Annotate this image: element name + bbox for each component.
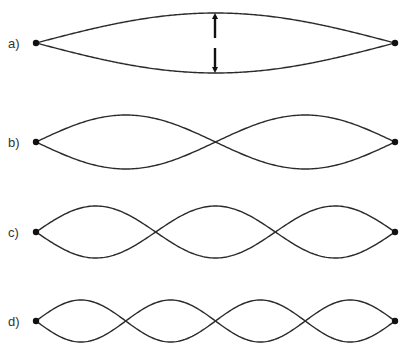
wave-lower-curve (36, 206, 395, 258)
panel-b-wave (33, 115, 398, 169)
panel-d-wave (33, 300, 398, 342)
fixed-end-right (392, 139, 398, 145)
fixed-end-left (33, 229, 39, 235)
wave-lower-curve (36, 115, 395, 169)
fixed-end-right (392, 318, 398, 324)
wave-upper-curve (36, 206, 395, 258)
standing-wave-diagram (0, 0, 412, 350)
fixed-end-left (33, 139, 39, 145)
panel-c-wave (33, 206, 398, 258)
fixed-end-right (392, 40, 398, 46)
fixed-end-left (33, 318, 39, 324)
wave-lower-curve (36, 300, 395, 342)
fixed-end-right (392, 229, 398, 235)
fixed-end-left (33, 40, 39, 46)
